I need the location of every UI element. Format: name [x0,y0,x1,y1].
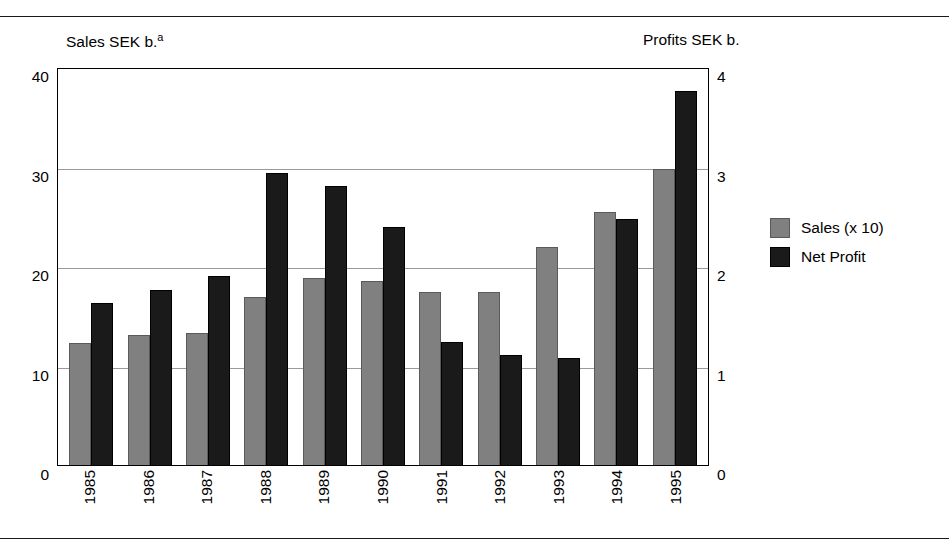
legend-item: Sales (x 10) [770,218,884,238]
x-tick-label: 1993 [550,470,568,504]
y-tick-label-right: 2 [717,267,757,285]
bar-sales [419,292,441,465]
legend-item: Net Profit [770,247,884,267]
x-tick-cell: 1985 [61,470,120,532]
bar-group [62,69,120,465]
x-tick-label: 1991 [433,470,451,504]
x-tick-label: 1990 [374,470,392,504]
plot-area [57,68,709,466]
bar-group [471,69,529,465]
legend-label: Sales (x 10) [801,219,884,237]
bar-sales [478,292,500,465]
bar-sales [303,278,325,465]
x-axis-labels: 1985198619871988198919901991199219931994… [57,470,709,532]
bar-sales [653,169,675,466]
y-tick-label-left: 0 [9,466,49,484]
bar-sales [361,281,383,465]
y-tick-label-right: 0 [717,466,757,484]
bar-group [237,69,295,465]
y-tick-label-left: 10 [9,367,49,385]
x-tick-label: 1995 [667,470,685,504]
left-axis-title: Sales SEK b.a [66,31,163,51]
bar-sales [128,335,150,465]
bar-group [179,69,237,465]
bar-net-profit [208,276,230,465]
x-tick-label: 1986 [140,470,158,504]
x-tick-label: 1994 [608,470,626,504]
x-tick-cell: 1986 [120,470,179,532]
left-axis-title-footnote-marker: a [157,31,163,43]
y-tick-label-left: 20 [9,267,49,285]
right-axis-title: Profits SEK b. [643,31,739,49]
bar-sales [186,333,208,465]
bar-sales [244,297,266,465]
x-tick-cell: 1989 [295,470,354,532]
bar-net-profit [441,342,463,465]
x-tick-cell: 1991 [412,470,471,532]
y-tick-label-right: 1 [717,367,757,385]
x-tick-cell: 1990 [354,470,413,532]
bar-group [646,69,704,465]
bar-net-profit [266,173,288,466]
bar-sales [536,247,558,465]
bar-group [354,69,412,465]
bar-net-profit [383,227,405,465]
legend-label: Net Profit [801,248,866,266]
bar-group [529,69,587,465]
x-tick-label: 1988 [257,470,275,504]
bar-net-profit [325,186,347,465]
x-tick-cell: 1992 [471,470,530,532]
bar-net-profit [558,358,580,466]
bar-groups [58,69,708,465]
y-axis-right: 43210 [717,68,759,466]
y-tick-label-right: 3 [717,168,757,186]
bar-net-profit [675,91,697,465]
bar-net-profit [500,355,522,465]
x-tick-cell: 1987 [178,470,237,532]
x-tick-cell: 1994 [588,470,647,532]
x-tick-label: 1992 [491,470,509,504]
top-divider-rule [0,16,949,17]
bar-group [412,69,470,465]
y-tick-label-left: 40 [9,68,49,86]
bar-group [295,69,353,465]
chart-legend: Sales (x 10)Net Profit [770,218,884,276]
legend-swatch-sales [770,218,790,238]
left-axis-title-text: Sales SEK b. [66,33,157,50]
y-tick-label-right: 4 [717,68,757,86]
x-tick-cell: 1995 [646,470,705,532]
bottom-divider-rule [0,538,949,539]
y-tick-label-left: 30 [9,168,49,186]
x-tick-cell: 1993 [529,470,588,532]
y-axis-left: 403020100 [7,68,49,466]
bar-group [587,69,645,465]
bar-net-profit [616,219,638,465]
bar-net-profit [150,290,172,465]
x-tick-label: 1985 [81,470,99,504]
bar-net-profit [91,303,113,465]
bar-sales [69,343,91,465]
bar-group [120,69,178,465]
x-tick-label: 1987 [198,470,216,504]
x-tick-cell: 1988 [237,470,296,532]
legend-swatch-profit [770,247,790,267]
bar-sales [594,212,616,465]
x-tick-label: 1989 [315,470,333,504]
